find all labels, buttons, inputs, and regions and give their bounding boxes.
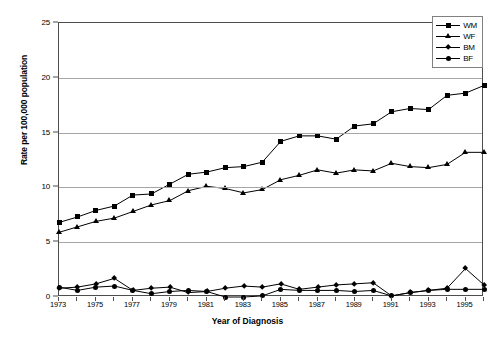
data-point-wm	[186, 172, 191, 177]
data-point-bf	[93, 285, 98, 290]
data-point-wf	[74, 224, 80, 229]
data-point-wf	[93, 218, 99, 223]
y-tick-label: 20	[42, 72, 51, 81]
x-tick-mark	[150, 297, 151, 301]
data-point-wf	[425, 164, 431, 169]
y-axis-title: Rate per 100,000 population	[19, 0, 29, 230]
data-point-wf	[388, 160, 394, 165]
x-tick-mark	[187, 297, 188, 301]
data-point-wf	[351, 167, 357, 172]
x-tick-label: 1975	[87, 300, 103, 309]
data-point-wm	[389, 109, 394, 114]
series-markers	[59, 23, 484, 297]
data-point-bf	[130, 288, 135, 293]
y-tick-label: 15	[42, 127, 51, 136]
data-point-wf	[56, 229, 62, 234]
data-point-wm	[223, 165, 228, 170]
data-point-wm	[445, 93, 450, 98]
data-point-wf	[166, 197, 172, 202]
gridline	[59, 187, 482, 188]
data-point-wm	[334, 137, 339, 142]
legend-swatch-square-icon	[436, 20, 460, 31]
data-point-bm	[111, 275, 117, 281]
x-axis: 1973197519771979198119831985198719891991…	[0, 297, 495, 313]
data-point-wm	[204, 170, 209, 175]
chart-figure: 0510152025 Rate per 100,000 population 1…	[0, 0, 495, 338]
y-tick-label: 5	[46, 237, 50, 246]
x-tick-mark	[446, 297, 447, 301]
data-point-wf	[481, 149, 487, 154]
y-tick-label: 10	[42, 182, 51, 191]
x-tick-mark	[113, 297, 114, 301]
data-point-wm	[315, 133, 320, 138]
legend-item-bm[interactable]: BM	[436, 42, 477, 53]
x-tick-mark	[76, 297, 77, 301]
y-axis: 0510152025	[0, 0, 58, 296]
x-tick-label: 1985	[272, 300, 288, 309]
data-point-wm	[426, 107, 431, 112]
chart-legend: WMWFBMBF	[432, 16, 483, 68]
x-tick-label: 1987	[309, 300, 325, 309]
y-tick-label: 25	[42, 18, 51, 27]
legend-swatch-circle-icon	[436, 53, 460, 64]
data-point-wm	[130, 193, 135, 198]
x-tick-label: 1981	[198, 300, 214, 309]
data-point-wm	[57, 220, 62, 225]
data-point-bf	[463, 287, 468, 292]
x-axis-title: Year of Diagnosis	[0, 316, 495, 326]
data-point-wm	[167, 182, 172, 187]
data-point-wf	[296, 172, 302, 177]
data-point-bf	[445, 287, 450, 292]
data-point-wf	[148, 202, 154, 207]
data-point-bf	[297, 288, 302, 293]
data-point-bf	[57, 285, 62, 290]
x-tick-label: 1991	[383, 300, 399, 309]
gridline	[59, 78, 482, 79]
data-point-bf	[352, 289, 357, 294]
data-point-bf	[371, 288, 376, 293]
data-point-bf	[186, 288, 191, 293]
data-point-wf	[314, 167, 320, 172]
legend-label: BF	[463, 53, 473, 64]
data-point-wm	[93, 208, 98, 213]
x-tick-label: 1983	[235, 300, 251, 309]
data-point-bf	[334, 288, 339, 293]
legend-label: WF	[463, 31, 475, 42]
data-point-wm	[112, 204, 117, 209]
data-point-bf	[315, 288, 320, 293]
data-point-wf	[462, 149, 468, 154]
data-point-wm	[278, 139, 283, 144]
x-tick-mark	[372, 297, 373, 301]
x-tick-label: 1989	[346, 300, 362, 309]
data-point-wf	[444, 161, 450, 166]
x-tick-label: 1973	[50, 300, 66, 309]
data-point-wm	[297, 133, 302, 138]
data-point-wm	[75, 214, 80, 219]
data-point-wf	[370, 168, 376, 173]
data-point-wf	[277, 177, 283, 182]
legend-item-wm[interactable]: WM	[436, 20, 477, 31]
legend-label: WM	[463, 20, 477, 31]
legend-item-bf[interactable]: BF	[436, 53, 477, 64]
data-point-wm	[241, 164, 246, 169]
data-point-bf	[112, 284, 117, 289]
data-point-wm	[482, 83, 487, 88]
legend-label: BM	[463, 42, 475, 53]
data-point-wm	[371, 121, 376, 126]
data-point-wf	[111, 215, 117, 220]
legend-item-wf[interactable]: WF	[436, 31, 477, 42]
data-point-bf	[278, 287, 283, 292]
data-point-bf	[204, 289, 209, 294]
data-point-bm	[370, 280, 376, 286]
x-tick-label: 1993	[420, 300, 436, 309]
legend-swatch-triangle-icon	[436, 31, 460, 42]
data-point-bf	[75, 288, 80, 293]
x-tick-mark	[224, 297, 225, 301]
gridline	[59, 242, 482, 243]
x-tick-mark	[483, 297, 484, 301]
data-point-wm	[149, 191, 154, 196]
x-tick-label: 1977	[124, 300, 140, 309]
x-tick-mark	[261, 297, 262, 301]
data-point-wm	[463, 91, 468, 96]
data-point-bm	[241, 283, 247, 289]
